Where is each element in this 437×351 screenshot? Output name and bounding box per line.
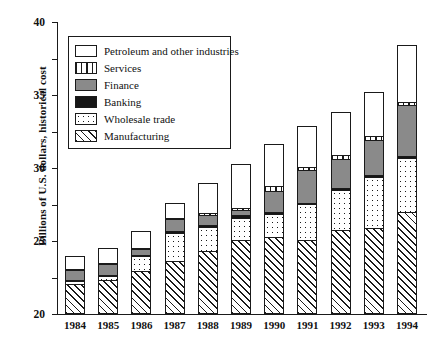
bar-1994 bbox=[397, 45, 417, 314]
legend-item-wholesale-trade[interactable]: Wholesale trade bbox=[75, 110, 224, 127]
y-tick-mark: 30 bbox=[52, 95, 57, 96]
y-tick-mark: 35 bbox=[52, 59, 57, 60]
y-tick-label: 40 bbox=[34, 16, 46, 28]
bar-segment-petroleum-and-other-industries bbox=[297, 126, 317, 168]
legend-swatch-dotted-icon bbox=[75, 113, 97, 125]
bar-1991 bbox=[297, 126, 317, 314]
bar-1988 bbox=[198, 183, 218, 314]
bar-segment-wholesale-trade bbox=[331, 190, 351, 231]
bar-segment-manufacturing bbox=[65, 284, 85, 314]
x-tick-label-1994: 1994 bbox=[387, 319, 427, 331]
bar-segment-wholesale-trade bbox=[264, 214, 284, 239]
y-tick-label: 25 bbox=[34, 235, 46, 247]
bar-segment-petroleum-and-other-industries bbox=[65, 256, 85, 270]
legend-label: Petroleum and other industries bbox=[104, 45, 239, 57]
bar-segment-manufacturing bbox=[231, 240, 251, 314]
legend-swatch-solid-black-icon bbox=[75, 96, 97, 108]
bar-segment-manufacturing bbox=[98, 280, 118, 314]
bar-1989 bbox=[231, 164, 251, 314]
legend-label: Banking bbox=[104, 96, 141, 108]
y-tick-label: 35 bbox=[34, 89, 46, 101]
bar-segment-petroleum-and-other-industries bbox=[331, 112, 351, 156]
legend-swatch-diagonal-hatch-icon bbox=[75, 130, 97, 142]
chart-root: Billions of U.S. dollars, historical cos… bbox=[0, 0, 437, 351]
chart-legend: Petroleum and other industriesServicesFi… bbox=[68, 36, 231, 149]
legend-item-finance[interactable]: Finance bbox=[75, 76, 224, 93]
y-tick-mark: 25 bbox=[52, 132, 57, 133]
y-tick-mark: 10 bbox=[52, 241, 57, 242]
bar-segment-finance bbox=[264, 191, 284, 214]
y-tick-mark: 15 bbox=[52, 205, 57, 206]
y-tick-mark: 20 bbox=[52, 168, 57, 169]
legend-swatch-solid-gray-icon bbox=[75, 79, 97, 91]
bar-segment-petroleum-and-other-industries bbox=[131, 231, 151, 249]
bar-segment-manufacturing bbox=[131, 271, 151, 314]
bar-segment-petroleum-and-other-industries bbox=[98, 248, 118, 264]
y-tick-mark: 0 bbox=[52, 314, 57, 315]
bar-1987 bbox=[165, 203, 185, 314]
bar-segment-finance bbox=[331, 159, 351, 189]
legend-label: Finance bbox=[104, 79, 139, 91]
bar-segment-finance bbox=[397, 105, 417, 157]
legend-label: Manufacturing bbox=[104, 130, 169, 142]
bar-segment-manufacturing bbox=[364, 228, 384, 314]
legend-item-petroleum-and-other-industries[interactable]: Petroleum and other industries bbox=[75, 42, 224, 59]
bar-segment-manufacturing bbox=[198, 251, 218, 314]
bar-segment-wholesale-trade bbox=[198, 227, 218, 252]
bar-segment-wholesale-trade bbox=[364, 177, 384, 229]
bar-segment-wholesale-trade bbox=[165, 233, 185, 262]
legend-label: Services bbox=[104, 62, 141, 74]
bar-segment-wholesale-trade bbox=[297, 204, 317, 241]
bar-1984 bbox=[65, 256, 85, 314]
bar-segment-petroleum-and-other-industries bbox=[397, 45, 417, 103]
y-tick-label: 30 bbox=[34, 162, 46, 174]
bar-1992 bbox=[331, 112, 351, 314]
bar-segment-manufacturing bbox=[264, 237, 284, 314]
y-tick-mark: 5 bbox=[52, 278, 57, 279]
legend-item-services[interactable]: Services bbox=[75, 59, 224, 76]
y-axis-line bbox=[57, 22, 58, 315]
legend-item-manufacturing[interactable]: Manufacturing bbox=[75, 127, 224, 144]
y-tick-mark: 40 bbox=[52, 22, 57, 23]
bar-segment-finance bbox=[364, 140, 384, 177]
legend-swatch-white-icon bbox=[75, 45, 97, 57]
legend-item-banking[interactable]: Banking bbox=[75, 93, 224, 110]
bar-segment-finance bbox=[297, 170, 317, 204]
bar-segment-manufacturing bbox=[165, 261, 185, 314]
bar-segment-manufacturing bbox=[397, 212, 417, 314]
bar-segment-petroleum-and-other-industries bbox=[264, 144, 284, 187]
bar-segment-manufacturing bbox=[297, 240, 317, 314]
legend-swatch-vertical-stripe-icon bbox=[75, 62, 97, 74]
bar-1993 bbox=[364, 92, 384, 314]
bar-segment-petroleum-and-other-industries bbox=[165, 203, 185, 219]
bar-segment-wholesale-trade bbox=[131, 256, 151, 272]
bar-1986 bbox=[131, 231, 151, 314]
legend-label: Wholesale trade bbox=[104, 113, 175, 125]
bar-1985 bbox=[98, 248, 118, 315]
bar-segment-petroleum-and-other-industries bbox=[231, 164, 251, 209]
bar-segment-wholesale-trade bbox=[231, 218, 251, 241]
bar-1990 bbox=[264, 144, 284, 314]
bar-segment-petroleum-and-other-industries bbox=[198, 183, 218, 214]
bar-segment-petroleum-and-other-industries bbox=[364, 92, 384, 137]
bar-segment-manufacturing bbox=[331, 230, 351, 314]
bar-segment-wholesale-trade bbox=[397, 158, 417, 213]
y-tick-label: 20 bbox=[34, 308, 46, 320]
